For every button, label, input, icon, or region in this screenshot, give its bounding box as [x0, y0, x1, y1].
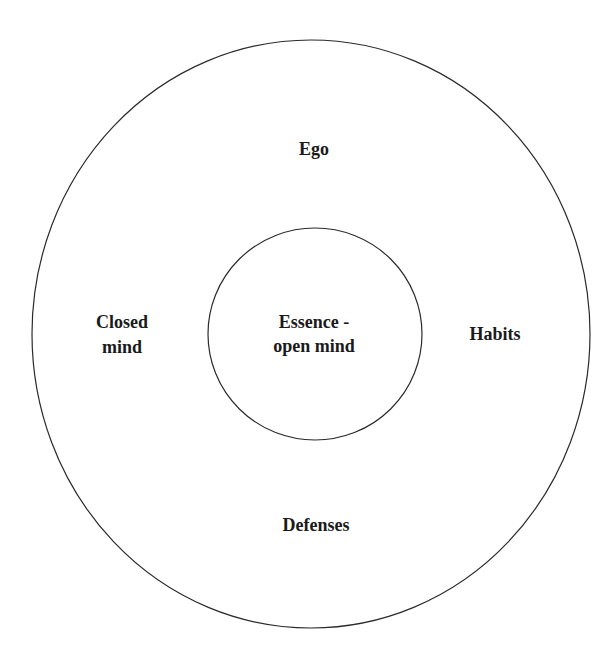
- concentric-diagram: Ego Closed mind Habits Defenses Essence …: [0, 0, 611, 658]
- label-essence-line2: open mind: [273, 336, 355, 356]
- label-closed-mind-line1: Closed: [96, 312, 148, 332]
- label-defenses: Defenses: [283, 515, 350, 535]
- label-closed-mind-line2: mind: [102, 337, 142, 357]
- label-habits: Habits: [469, 324, 520, 344]
- inner-circle: [208, 228, 422, 440]
- label-ego: Ego: [299, 139, 329, 159]
- label-essence-line1: Essence -: [279, 312, 350, 332]
